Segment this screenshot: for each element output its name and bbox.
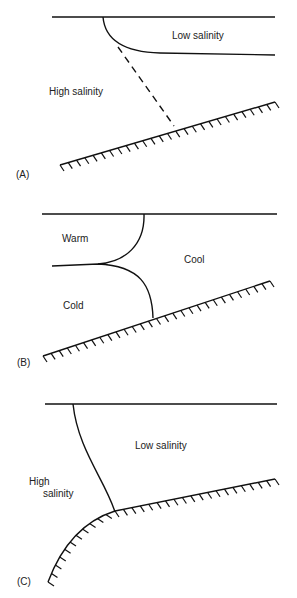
panel-tag-c: (C) bbox=[17, 576, 31, 587]
label-high-salinity-a: High salinity bbox=[49, 86, 103, 97]
seabed-hatching bbox=[60, 102, 279, 171]
label-high-c: High bbox=[29, 476, 50, 487]
label-warm: Warm bbox=[62, 233, 88, 244]
panel-tag-a: (A) bbox=[16, 169, 29, 180]
panel-c-lines bbox=[45, 404, 279, 586]
seabed-line bbox=[48, 479, 275, 582]
label-cool: Cool bbox=[184, 254, 205, 265]
salinity-boundary bbox=[73, 404, 115, 512]
label-salinity-c: salinity bbox=[43, 488, 74, 499]
seabed-hatching bbox=[43, 281, 274, 362]
label-cold: Cold bbox=[63, 300, 84, 311]
diagram-canvas bbox=[0, 0, 297, 598]
dashed-front-line bbox=[118, 47, 174, 126]
warm-cool-boundary bbox=[98, 214, 144, 264]
label-low-salinity-c: Low salinity bbox=[135, 440, 187, 451]
seabed-hatching bbox=[48, 479, 279, 586]
panel-tag-b: (B) bbox=[17, 357, 30, 368]
label-low-salinity-a: Low salinity bbox=[172, 30, 224, 41]
